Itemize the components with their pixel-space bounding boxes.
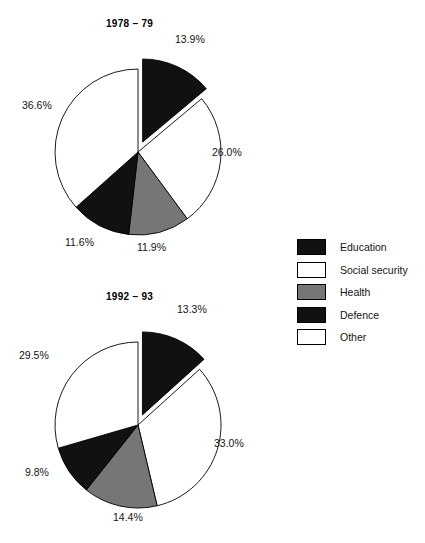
- legend-item-other: Other: [297, 329, 422, 352]
- chart-title-1992-93: 1992 – 93: [106, 291, 153, 302]
- pie1-label-education: 13.9%: [175, 33, 205, 45]
- pie2-label-social-security: 33.0%: [214, 437, 244, 449]
- pie2-label-defence: 9.8%: [25, 466, 49, 478]
- legend-swatch-health-icon: [297, 284, 326, 300]
- pie2-label-other: 29.5%: [19, 349, 49, 361]
- legend-swatch-social-security-icon: [297, 262, 326, 278]
- chart-title-1978-79: 1978 – 79: [106, 18, 153, 29]
- legend-swatch-other-icon: [297, 329, 326, 345]
- legend-label-social-security: Social security: [340, 264, 408, 276]
- pie1-label-defence: 11.6%: [65, 236, 94, 248]
- pie1-label-health: 11.9%: [137, 241, 166, 253]
- legend-item-defence: Defence: [297, 307, 422, 330]
- chart-legend: Education Social security Health Defence…: [297, 239, 422, 352]
- pie2-label-education: 13.3%: [177, 303, 207, 315]
- pie1-label-other: 36.6%: [22, 99, 52, 111]
- legend-swatch-defence-icon: [297, 307, 326, 323]
- pie-chart-1992-93: [8, 311, 268, 543]
- legend-swatch-education-icon: [297, 239, 326, 255]
- legend-item-education: Education: [297, 239, 422, 262]
- legend-item-health: Health: [297, 284, 422, 307]
- pie2-label-health: 14.4%: [113, 511, 143, 523]
- legend-label-defence: Defence: [340, 309, 379, 321]
- legend-item-social-security: Social security: [297, 262, 422, 285]
- legend-label-other: Other: [340, 331, 366, 343]
- pie1-label-social-security: 26.0%: [212, 146, 242, 158]
- pie-chart-figure: 1978 – 79 13.9% 26.0% 11.9% 11.6% 36.6% …: [0, 0, 425, 543]
- legend-label-health: Health: [340, 286, 370, 298]
- legend-label-education: Education: [340, 241, 387, 253]
